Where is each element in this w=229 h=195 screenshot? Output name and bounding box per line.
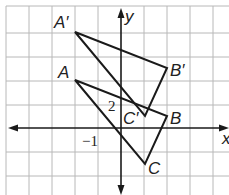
- tick-label-y-2: 2: [108, 98, 116, 114]
- y-axis-up-arrow-icon: [118, 8, 125, 18]
- label-c: C: [148, 159, 161, 178]
- coordinate-plane: A′ B′ C′ A B C y x 2 −1: [0, 0, 229, 195]
- label-y-axis: y: [124, 7, 135, 26]
- label-c-prime: C′: [123, 109, 139, 128]
- label-a: A: [57, 63, 69, 82]
- label-b: B: [170, 109, 181, 128]
- label-a-prime: A′: [53, 13, 69, 32]
- y-axis-down-arrow-icon: [118, 185, 125, 195]
- grid: [6, 6, 229, 195]
- tick-label-x-neg1: −1: [82, 133, 98, 149]
- axes: [8, 8, 229, 195]
- label-x-axis: x: [221, 129, 229, 148]
- x-axis-left-arrow-icon: [8, 125, 18, 132]
- label-b-prime: B′: [170, 61, 185, 80]
